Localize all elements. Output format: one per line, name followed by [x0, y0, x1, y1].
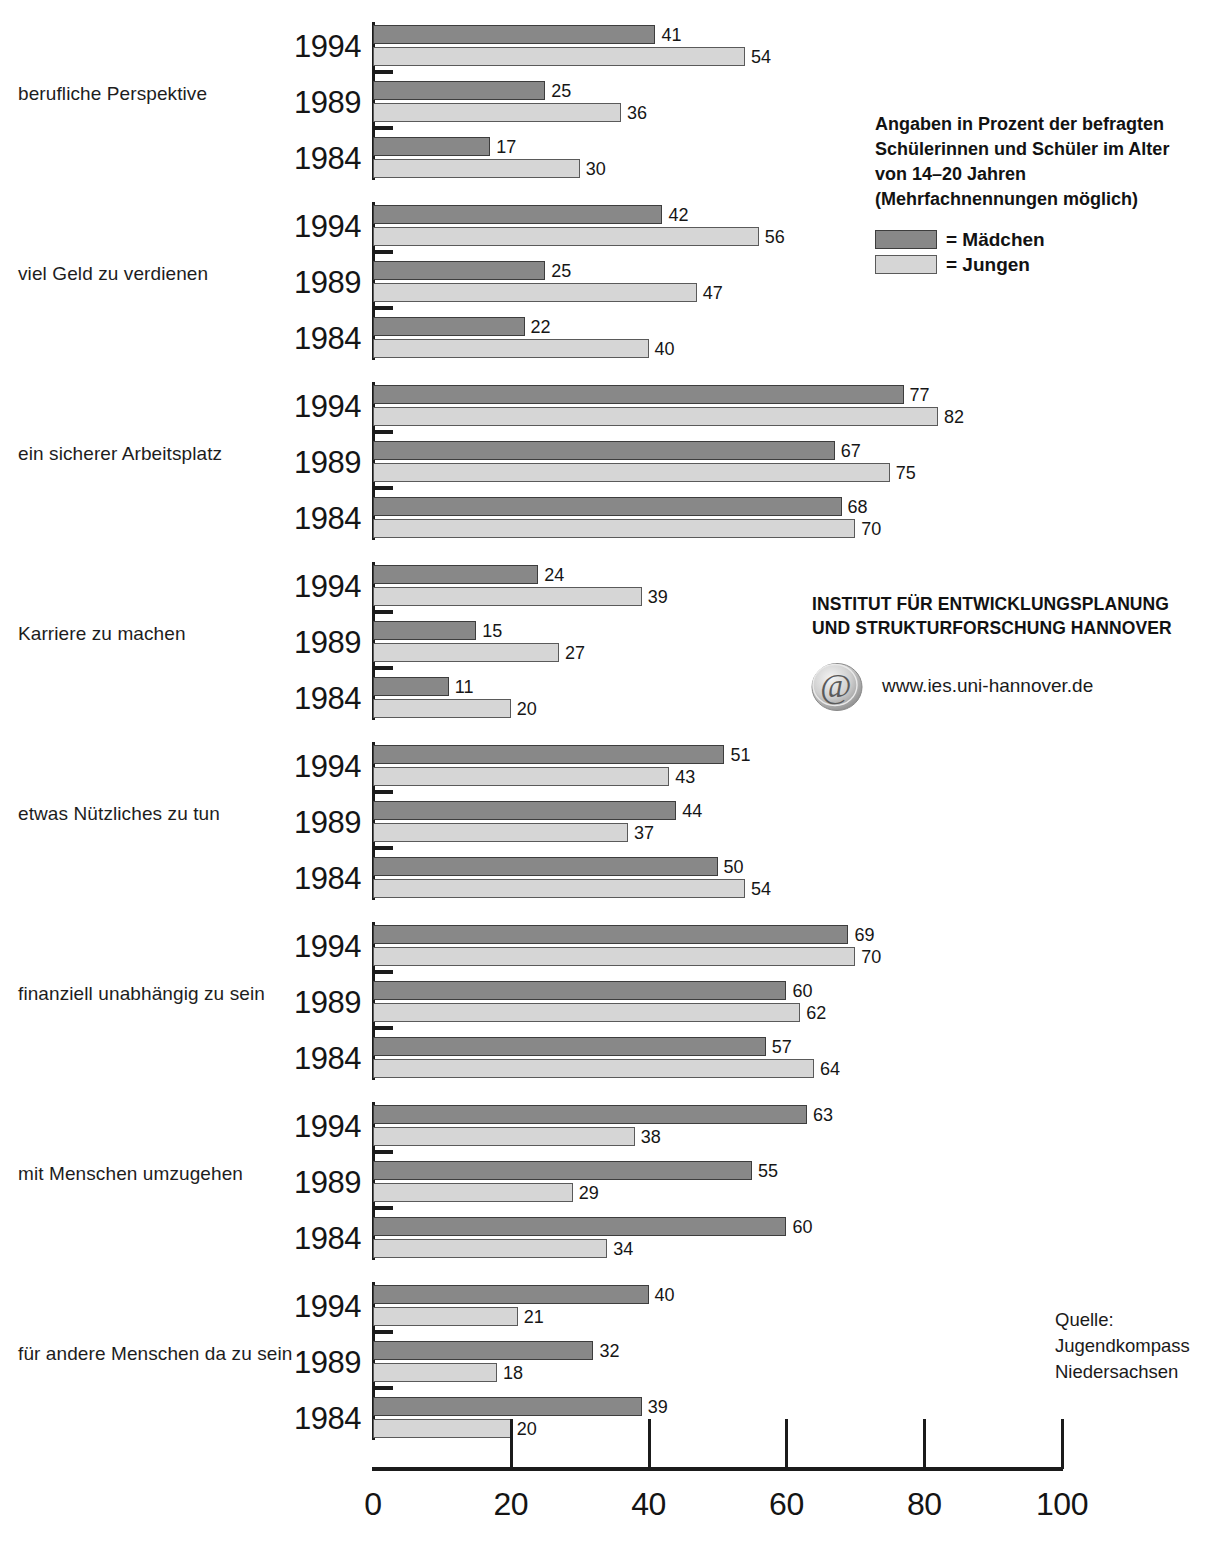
year-separator-tick — [373, 486, 393, 490]
bar-value-label: 37 — [634, 824, 654, 842]
bar-value-label: 60 — [792, 982, 812, 1000]
legend-label-maedchen: = Mädchen — [946, 229, 1045, 251]
year-row: 19843920 — [0, 1394, 1226, 1450]
year-row: 19894437 — [0, 798, 1226, 854]
bar-jungen: 36 — [373, 103, 621, 122]
year-separator-tick — [373, 1026, 393, 1030]
x-axis-tick — [785, 1419, 788, 1469]
bar-maedchen: 11 — [373, 677, 449, 696]
bar-maedchen: 63 — [373, 1105, 807, 1124]
bar-value-label: 38 — [641, 1128, 661, 1146]
x-axis-line — [372, 1467, 1063, 1471]
year-separator-tick — [373, 970, 393, 974]
bar-jungen: 47 — [373, 283, 697, 302]
bar-value-label: 57 — [772, 1038, 792, 1056]
svg-text:@: @ — [820, 667, 851, 705]
year-row: 19893218 — [0, 1338, 1226, 1394]
bar-jungen: 27 — [373, 643, 559, 662]
note-line-3: von 14–20 Jahren — [875, 162, 1220, 187]
bar-jungen: 39 — [373, 587, 642, 606]
year-row: 19845054 — [0, 854, 1226, 910]
bar-pair: 5143 — [373, 745, 724, 786]
bar-value-label: 54 — [751, 48, 771, 66]
bar-group: für andere Menschen da zu sein1994402119… — [0, 1282, 1226, 1452]
x-axis-tick — [648, 1419, 651, 1469]
institute-line-1: INSTITUT FÜR ENTWICKLUNGSPLANUNG — [812, 592, 1224, 616]
bar-maedchen: 25 — [373, 261, 545, 280]
year-label: 1994 — [241, 1110, 361, 1144]
legend-swatch-maedchen-icon — [875, 230, 937, 249]
bar-jungen: 43 — [373, 767, 669, 786]
year-separator-tick — [373, 126, 393, 130]
year-label: 1994 — [241, 210, 361, 244]
year-label: 1989 — [241, 1166, 361, 1200]
source-line-2: Jugendkompass — [1055, 1333, 1225, 1359]
bar-value-label: 21 — [524, 1308, 544, 1326]
bar-value-label: 25 — [551, 82, 571, 100]
bar-value-label: 34 — [613, 1240, 633, 1258]
bar-maedchen: 77 — [373, 385, 904, 404]
bar-value-label: 39 — [648, 1398, 668, 1416]
bar-pair: 1120 — [373, 677, 511, 718]
year-label: 1989 — [241, 626, 361, 660]
institute-name: INSTITUT FÜR ENTWICKLUNGSPLANUNG UND STR… — [812, 592, 1224, 640]
bar-value-label: 11 — [455, 678, 474, 696]
bar-value-label: 50 — [724, 858, 744, 876]
bar-maedchen: 68 — [373, 497, 842, 516]
institute-line-2: UND STRUKTURFORSCHUNG HANNOVER — [812, 616, 1224, 640]
bar-jungen: 70 — [373, 519, 855, 538]
year-label: 1989 — [241, 86, 361, 120]
bar-value-label: 54 — [751, 880, 771, 898]
bar-pair: 2536 — [373, 81, 621, 122]
year-row: 19945143 — [0, 742, 1226, 798]
x-axis-tick — [510, 1419, 513, 1469]
bar-value-label: 67 — [841, 442, 861, 460]
chart-legend: = Mädchen = Jungen — [875, 227, 1045, 277]
bar-maedchen: 17 — [373, 137, 490, 156]
year-row: 19846870 — [0, 494, 1226, 550]
bar-jungen: 62 — [373, 1003, 800, 1022]
bar-value-label: 70 — [861, 948, 881, 966]
bar-pair: 4021 — [373, 1285, 649, 1326]
bar-value-label: 77 — [910, 386, 930, 404]
bar-value-label: 62 — [806, 1004, 826, 1022]
bar-maedchen: 69 — [373, 925, 848, 944]
year-row: 19944154 — [0, 22, 1226, 78]
bar-value-label: 22 — [531, 318, 551, 336]
bar-maedchen: 24 — [373, 565, 538, 584]
year-separator-tick — [373, 1386, 393, 1390]
bar-value-label: 18 — [503, 1364, 523, 1382]
bar-pair: 7782 — [373, 385, 938, 426]
bar-jungen: 82 — [373, 407, 938, 426]
bar-value-label: 82 — [944, 408, 964, 426]
website-url[interactable]: www.ies.uni-hannover.de — [882, 675, 1093, 697]
bar-maedchen: 57 — [373, 1037, 766, 1056]
bar-maedchen: 39 — [373, 1397, 642, 1416]
bar-group: finanziell unabhängig zu sein19946970198… — [0, 922, 1226, 1092]
x-axis-tick-label: 40 — [631, 1487, 666, 1521]
year-separator-tick — [373, 250, 393, 254]
bar-value-label: 17 — [496, 138, 516, 156]
year-row: 19947782 — [0, 382, 1226, 438]
source-note: Quelle: Jugendkompass Niedersachsen — [1055, 1307, 1225, 1385]
bar-jungen: 54 — [373, 879, 745, 898]
bar-jungen: 54 — [373, 47, 745, 66]
bar-value-label: 39 — [648, 588, 668, 606]
bar-value-label: 69 — [854, 926, 874, 944]
bar-jungen: 29 — [373, 1183, 573, 1202]
bar-value-label: 41 — [661, 26, 681, 44]
year-label: 1989 — [241, 446, 361, 480]
bar-pair: 4154 — [373, 25, 745, 66]
year-separator-tick — [373, 1330, 393, 1334]
bar-pair: 6062 — [373, 981, 800, 1022]
bar-pair: 2240 — [373, 317, 649, 358]
bar-jungen: 30 — [373, 159, 580, 178]
x-axis-tick-label: 60 — [769, 1487, 804, 1521]
bar-value-label: 51 — [730, 746, 750, 764]
legend-item-jungen: = Jungen — [875, 252, 1045, 277]
source-line-3: Niedersachsen — [1055, 1359, 1225, 1385]
bar-pair: 6870 — [373, 497, 855, 538]
bar-maedchen: 15 — [373, 621, 476, 640]
bar-pair: 5529 — [373, 1161, 752, 1202]
bar-jungen: 37 — [373, 823, 628, 842]
